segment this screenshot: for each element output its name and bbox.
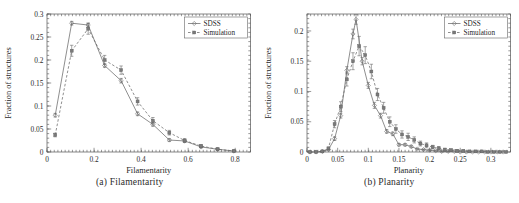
y-axis-label: Fraction of structures <box>4 47 13 119</box>
x-axis-label: Filamentarity <box>126 166 172 175</box>
data-point-marker <box>486 151 489 154</box>
data-point-marker <box>474 150 477 153</box>
data-point-marker <box>320 150 323 153</box>
data-point-marker <box>183 139 186 142</box>
plot-area-planarity: 00.050.10.150.20.250.300.050.10.150.2Pla… <box>260 0 519 178</box>
series-simulation <box>54 23 236 152</box>
data-point-marker <box>216 148 219 151</box>
y-tick-label: 0.05 <box>290 117 303 126</box>
data-point-marker <box>369 70 372 73</box>
y-tick-label: 0 <box>40 148 44 157</box>
data-point-marker <box>314 151 317 154</box>
data-point-marker <box>151 119 154 122</box>
data-point-marker <box>467 150 470 153</box>
x-tick-label: 0.6 <box>184 155 194 164</box>
y-tick-label: 0.2 <box>34 56 44 65</box>
data-point-marker <box>382 106 385 109</box>
data-point-marker <box>425 144 428 147</box>
data-point-marker <box>233 150 236 153</box>
data-point-marker <box>375 93 378 96</box>
data-point-marker <box>357 45 360 48</box>
data-point-marker <box>498 151 501 154</box>
chart-filamentarity: 00.20.40.60.800.050.10.150.20.250.3Filam… <box>0 0 260 178</box>
data-point-marker <box>333 123 336 126</box>
y-tick-label: 0.2 <box>294 27 304 36</box>
y-tick-label: 0.15 <box>290 57 303 66</box>
data-point-marker <box>120 69 123 72</box>
legend: SDSSSimulation <box>444 17 507 38</box>
data-point-marker <box>326 147 329 150</box>
legend-label: SDSS <box>204 20 221 28</box>
caption-panel-b: (b) Planarity <box>260 177 519 187</box>
data-point-marker <box>193 31 196 34</box>
x-tick-label: 0.25 <box>453 155 466 164</box>
x-tick-label: 0 <box>45 155 49 164</box>
series-line <box>55 29 234 151</box>
series-sdss <box>53 21 236 153</box>
x-tick-label: 0 <box>305 155 309 164</box>
legend-label: Simulation <box>463 29 495 37</box>
data-point-marker <box>504 151 507 154</box>
x-tick-label: 0.8 <box>231 155 241 164</box>
data-point-marker <box>70 49 73 52</box>
data-point-marker <box>388 120 391 123</box>
data-point-marker <box>418 142 421 145</box>
series-line <box>310 19 503 152</box>
data-point-marker <box>412 138 415 141</box>
data-point-marker <box>452 31 455 34</box>
y-tick-label: 0.3 <box>34 10 44 19</box>
data-point-marker <box>449 149 452 152</box>
data-point-marker <box>431 146 434 149</box>
data-point-marker <box>339 105 342 108</box>
x-tick-label: 0.2 <box>89 155 99 164</box>
data-point-marker <box>461 149 464 152</box>
data-point-marker <box>168 131 171 134</box>
x-axis-label: Planarity <box>393 166 424 175</box>
x-tick-label: 0.1 <box>363 155 373 164</box>
x-tick-label: 0.3 <box>486 155 496 164</box>
data-point-marker <box>345 78 348 81</box>
data-point-marker <box>492 151 495 154</box>
data-point-marker <box>480 150 483 153</box>
x-tick-label: 0.4 <box>136 155 146 164</box>
legend: SDSSSimulation <box>185 17 248 38</box>
data-point-marker <box>363 54 366 57</box>
panel-filamentarity: 00.20.40.60.800.050.10.150.20.250.3Filam… <box>0 0 260 203</box>
data-point-marker <box>351 60 354 63</box>
series-simulation <box>308 36 507 153</box>
data-point-marker <box>406 135 409 138</box>
chart-planarity: 00.050.10.150.20.250.300.050.10.150.2Pla… <box>260 0 519 178</box>
x-tick-label: 0.05 <box>331 155 344 164</box>
y-tick-label: 0 <box>299 148 303 157</box>
y-tick-label: 0.15 <box>31 79 44 88</box>
data-point-marker <box>136 100 139 103</box>
y-axis-label: Fraction of structures <box>264 47 273 119</box>
data-point-marker <box>200 145 203 148</box>
caption-panel-a: (a) Filamentarity <box>0 177 260 187</box>
data-point-marker <box>394 128 397 131</box>
y-tick-label: 0.1 <box>34 102 44 111</box>
legend-label: SDSS <box>463 20 480 28</box>
data-point-marker <box>87 27 90 30</box>
data-point-marker <box>308 151 311 154</box>
data-point-marker <box>103 59 106 62</box>
x-tick-label: 0.15 <box>392 155 405 164</box>
data-point-marker <box>443 148 446 151</box>
series-line <box>55 23 234 151</box>
plot-area-filamentarity: 00.20.40.60.800.050.10.150.20.250.3Filam… <box>0 0 260 178</box>
y-tick-label: 0.05 <box>31 125 44 134</box>
data-point-marker <box>400 133 403 136</box>
panel-planarity: 00.050.10.150.20.250.300.050.10.150.2Pla… <box>260 0 519 203</box>
y-tick-label: 0.1 <box>294 87 304 96</box>
y-tick-label: 0.25 <box>31 33 44 42</box>
data-point-marker <box>437 147 440 150</box>
legend-label: Simulation <box>204 29 236 37</box>
x-tick-label: 0.2 <box>424 155 434 164</box>
figure-container: 00.20.40.60.800.050.10.150.20.250.3Filam… <box>0 0 519 203</box>
data-point-marker <box>54 133 57 136</box>
data-point-marker <box>455 149 458 152</box>
